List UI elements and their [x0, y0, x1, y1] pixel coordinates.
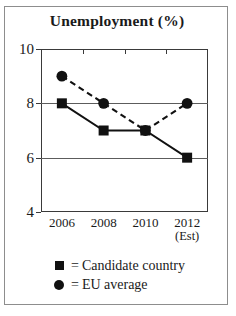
y-tick-mark-4 [36, 212, 41, 213]
y-axis-label-4: 4 [4, 205, 34, 220]
x-axis-label-year: 2012 [174, 215, 200, 230]
y-axis-label-6: 6 [4, 150, 34, 165]
square-marker-icon-glyph [55, 261, 64, 270]
x-axis-label-2012: 2012(Est) [157, 216, 217, 243]
legend-row-0: =Candidate country [52, 256, 222, 275]
data-series-layer [41, 49, 208, 212]
data-point-circle-2010 [140, 125, 151, 136]
chart-title: Unemployment (%) [10, 12, 224, 30]
circle-marker-icon-glyph [54, 280, 64, 290]
data-point-square-2008 [99, 126, 109, 136]
y-axis-label-8: 8 [4, 96, 34, 111]
series-line-candidate-country [62, 103, 187, 157]
legend-equals-sign: = [66, 277, 82, 293]
x-axis-label-year: 2010 [132, 215, 158, 230]
y-axis-label-10: 10 [4, 42, 34, 57]
chart-figure: Unemployment (%) 46810 2006200820102012(… [0, 0, 236, 316]
square-marker-icon [52, 261, 66, 270]
x-axis-label-year: 2008 [91, 215, 117, 230]
data-point-circle-2012 [182, 98, 193, 109]
legend-label-0: Candidate country [82, 258, 185, 274]
series-line-eu-average [62, 76, 187, 130]
data-point-square-2006 [57, 98, 67, 108]
x-axis-label-year: 2006 [49, 215, 75, 230]
data-point-circle-2006 [56, 71, 67, 82]
legend-row-1: =EU average [52, 275, 222, 294]
legend-equals-sign: = [66, 258, 82, 274]
data-point-square-2012 [182, 153, 192, 163]
plot-area [41, 49, 208, 212]
data-point-circle-2008 [98, 98, 109, 109]
legend-label-1: EU average [82, 277, 148, 293]
circle-marker-icon [52, 280, 66, 290]
chart-legend: =Candidate country=EU average [52, 256, 222, 294]
x-axis-label-sublabel: (Est) [157, 230, 217, 243]
